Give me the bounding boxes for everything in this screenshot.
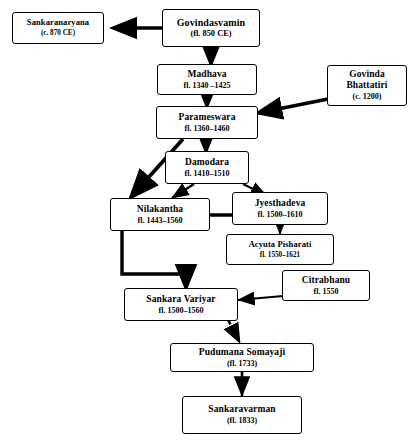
node-citrabhanu[interactable]: Citrabhanu fl. 1550	[282, 270, 370, 301]
node-name: Govindasvamin	[177, 17, 246, 29]
diagram-canvas: Govindasvamin (fl. 850 CE) Sankaranaryan…	[0, 0, 420, 446]
node-govindasvamin[interactable]: Govindasvamin (fl. 850 CE)	[162, 9, 260, 47]
node-name: Jyesthadeva	[255, 198, 306, 209]
node-date: (c. 1200)	[353, 92, 382, 101]
node-date: (fl. 1833)	[227, 416, 257, 425]
node-name: Sankaravarman	[208, 404, 275, 415]
node-name: Acyuta Pisharati	[249, 240, 312, 250]
node-parameswara[interactable]: Parameswara fl. 1360–1460	[156, 106, 258, 139]
edge-citrabhanu-sankara-variyar	[238, 296, 283, 300]
node-date: (fl. 1733)	[227, 359, 257, 368]
node-date: fl. 1550–1621	[260, 251, 300, 259]
node-date: fl. 1500–1560	[159, 306, 204, 315]
node-madhava[interactable]: Madhava fl. 1340 –1425	[157, 64, 257, 95]
node-sankaranaryana[interactable]: Sankaranaryana (c. 870 CE)	[12, 12, 104, 44]
node-date: fl. 1360–1460	[185, 124, 230, 133]
node-name: Madhava	[187, 69, 226, 80]
edge-damodara-nilakantha	[172, 184, 194, 198]
node-date: fl. 1443–1560	[138, 216, 183, 225]
node-name: Damodara	[185, 157, 229, 168]
node-name: Sankaranaryana	[27, 18, 89, 28]
node-name-line2: Bhattatiri	[346, 80, 387, 91]
node-date: (fl. 850 CE)	[190, 29, 231, 39]
node-date: fl. 1340 –1425	[184, 81, 231, 90]
node-acyuta-pisharati[interactable]: Acyuta Pisharati fl. 1550–1621	[226, 234, 334, 265]
node-govinda-bhattatiri[interactable]: Govinda Bhattatiri (c. 1200)	[327, 65, 407, 106]
node-sankaravarman[interactable]: Sankaravarman (fl. 1833)	[182, 396, 302, 434]
node-sankara-variyar[interactable]: Sankara Variyar fl. 1500–1560	[124, 288, 238, 321]
node-name: Pudumana Somayaji	[199, 347, 285, 358]
node-name: Nilakantha	[137, 204, 183, 215]
node-nilakantha[interactable]: Nilakantha fl. 1443–1560	[110, 198, 210, 231]
edge-bhattatiri-parameswara	[258, 99, 328, 113]
node-name-line1: Govinda	[349, 69, 385, 80]
node-jyesthadeva[interactable]: Jyesthadeva fl. 1500–1610	[232, 192, 328, 225]
node-date: fl. 1410–1510	[185, 169, 230, 178]
node-date: (c. 870 CE)	[41, 29, 75, 37]
node-date: fl. 1550	[314, 287, 339, 296]
node-pudumana-somayaji[interactable]: Pudumana Somayaji (fl. 1733)	[170, 343, 314, 372]
node-name: Sankara Variyar	[146, 294, 215, 305]
node-name: Parameswara	[178, 112, 235, 123]
node-date: fl. 1500–1610	[258, 210, 303, 219]
node-name: Citrabhanu	[302, 275, 351, 286]
node-damodara[interactable]: Damodara fl. 1410–1510	[165, 151, 249, 184]
